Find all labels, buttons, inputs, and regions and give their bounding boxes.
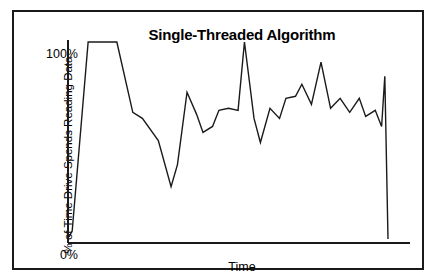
chart-screenshot: Single-Threaded Algorithm 100% 0% % of T…	[0, 0, 437, 279]
data-series-line	[69, 42, 388, 239]
plot-area	[0, 0, 437, 279]
